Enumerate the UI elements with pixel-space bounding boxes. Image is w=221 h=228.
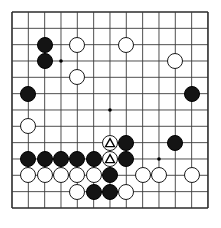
black-stone[interactable] (37, 37, 53, 53)
white-stone[interactable] (135, 167, 151, 183)
white-stone[interactable] (184, 167, 200, 183)
star-point (59, 59, 63, 63)
white-stone[interactable] (69, 184, 85, 200)
white-stone[interactable] (86, 167, 102, 183)
marked-white-stone[interactable] (102, 135, 118, 151)
white-stone[interactable] (69, 37, 85, 53)
black-stone[interactable] (86, 184, 102, 200)
white-stone[interactable] (118, 184, 134, 200)
black-stone[interactable] (37, 53, 53, 69)
black-stone[interactable] (53, 151, 69, 167)
marked-white-stone[interactable] (102, 151, 118, 167)
black-stone[interactable] (167, 135, 183, 151)
black-stone[interactable] (184, 86, 200, 102)
star-point (157, 157, 161, 161)
go-board-diagram (0, 0, 221, 228)
star-point (108, 108, 112, 112)
black-stone[interactable] (102, 184, 118, 200)
black-stone[interactable] (118, 135, 134, 151)
black-stone[interactable] (37, 151, 53, 167)
black-stone[interactable] (20, 86, 36, 102)
black-stone[interactable] (86, 151, 102, 167)
white-stone[interactable] (118, 37, 134, 53)
white-stone[interactable] (37, 167, 53, 183)
